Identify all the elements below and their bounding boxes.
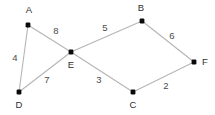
edge-weight-b-e: 5 <box>102 23 107 33</box>
node-label-c: C <box>130 100 137 110</box>
edge-weight-d-e: 7 <box>44 75 49 85</box>
node-label-e: E <box>68 60 74 70</box>
weighted-graph-figure: 4875632ABCDEF <box>0 0 215 115</box>
edge-weight-c-e: 3 <box>96 75 101 85</box>
edge-weight-a-d: 4 <box>12 53 17 63</box>
edge-weight-a-e: 8 <box>53 26 58 36</box>
edge-weight-c-f: 2 <box>163 81 168 91</box>
node-label-a: A <box>26 5 32 15</box>
node-label-b: B <box>138 3 144 13</box>
graph-text-layer: 4875632ABCDEF <box>0 0 215 115</box>
node-label-f: F <box>202 57 208 67</box>
node-label-d: D <box>16 100 23 110</box>
edge-weight-b-f: 6 <box>169 31 174 41</box>
